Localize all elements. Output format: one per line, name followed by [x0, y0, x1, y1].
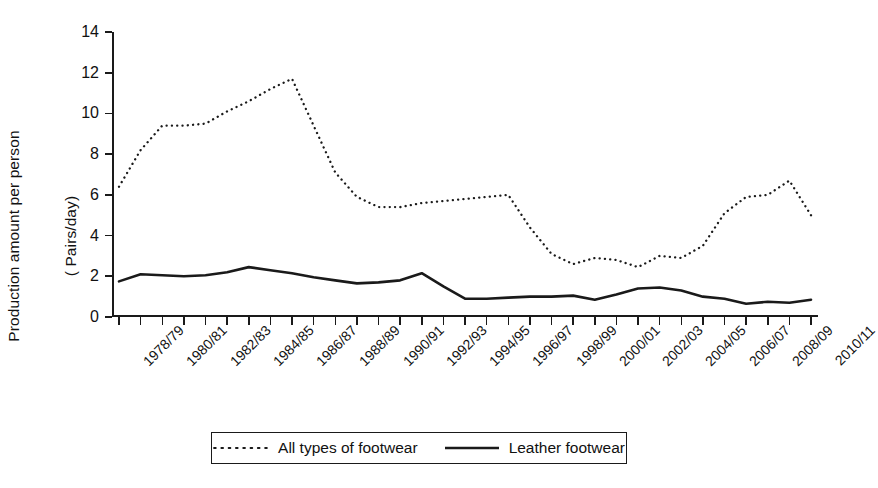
x-axis-tick — [551, 317, 553, 325]
x-axis-tick — [226, 317, 228, 325]
x-axis-tick — [810, 317, 812, 325]
y-axis-tick: 0 — [105, 316, 112, 318]
x-axis-tick — [464, 317, 466, 325]
x-axis-tick — [572, 317, 574, 325]
x-axis-tick — [443, 317, 445, 325]
y-axis-tick-label: 8 — [90, 145, 105, 163]
x-axis-tick-label: 1984/85 — [270, 322, 317, 369]
x-axis-tick — [399, 317, 401, 325]
x-axis-tick-label: 1988/89 — [356, 322, 403, 369]
y-axis-tick-label: 2 — [90, 267, 105, 285]
x-axis-tick — [616, 317, 618, 325]
x-axis-tick — [291, 317, 293, 325]
x-axis-tick-label: 1980/81 — [183, 322, 230, 369]
y-axis-title-line1: Production amount per person — [4, 76, 23, 396]
y-axis-tick: 10 — [105, 113, 112, 115]
x-axis-tick-label: 1994/95 — [486, 322, 533, 369]
y-axis-tick-label: 10 — [81, 104, 105, 122]
series-layer — [112, 32, 818, 317]
legend-item-all-types: All types of footwear — [213, 439, 418, 457]
legend-item-leather: Leather footwear — [444, 439, 625, 457]
y-axis-tick: 12 — [105, 72, 112, 74]
y-axis-tick: 2 — [105, 275, 112, 277]
x-axis-tick-label: 1992/93 — [443, 322, 490, 369]
x-axis-tick — [702, 317, 704, 325]
x-axis-tick — [270, 317, 272, 325]
x-axis-tick-label: 2010/11 — [832, 322, 878, 368]
x-axis-tick — [529, 317, 531, 325]
x-axis-tick-label: 2006/07 — [745, 322, 792, 369]
x-axis-tick-label: 1990/91 — [399, 322, 446, 369]
x-axis-tick — [421, 317, 423, 325]
x-axis-tick — [248, 317, 250, 325]
x-axis-tick — [659, 317, 661, 325]
x-axis-tick — [508, 317, 510, 325]
y-axis-tick-label: 0 — [90, 308, 105, 326]
x-axis-tick — [378, 317, 380, 325]
series-line-leather-footwear — [119, 267, 811, 304]
y-axis-tick: 6 — [105, 194, 112, 196]
series-line-all-types-of-footwear — [119, 79, 811, 267]
x-axis-tick — [162, 317, 164, 325]
y-axis-tick-label: 6 — [90, 185, 105, 203]
x-axis-tick-label: 1978/79 — [140, 322, 187, 369]
x-axis-tick-label: 2000/01 — [616, 322, 663, 369]
x-axis-tick — [681, 317, 683, 325]
dotted-line-swatch-icon — [213, 442, 269, 454]
x-axis-tick-label: 1982/83 — [226, 322, 273, 369]
y-axis-tick-label: 14 — [81, 23, 105, 41]
x-axis-tick — [313, 317, 315, 325]
y-axis-tick-label: 4 — [90, 226, 105, 244]
x-axis-tick-label: 2008/09 — [789, 322, 836, 369]
y-axis-tick-label: 12 — [81, 63, 105, 81]
legend-label-leather: Leather footwear — [509, 439, 625, 457]
x-axis-tick — [724, 317, 726, 325]
legend-label-all-types: All types of footwear — [278, 439, 418, 457]
x-axis-tick — [335, 317, 337, 325]
x-axis-tick — [745, 317, 747, 325]
x-axis-tick-label: 1986/87 — [313, 322, 360, 369]
x-axis-tick — [356, 317, 358, 325]
x-axis-tick-label: 1998/99 — [572, 322, 619, 369]
x-axis-tick-label: 2002/03 — [659, 322, 706, 369]
plot-area: 02468101214 — [112, 32, 818, 317]
x-axis-tick — [637, 317, 639, 325]
x-axis-tick — [118, 317, 120, 325]
y-axis-tick: 8 — [105, 153, 112, 155]
x-axis-tick — [183, 317, 185, 325]
x-axis-tick — [205, 317, 207, 325]
x-axis-tick-label: 2004/05 — [702, 322, 749, 369]
x-axis-tick — [789, 317, 791, 325]
y-axis-tick: 14 — [105, 31, 112, 33]
x-axis-tick — [594, 317, 596, 325]
y-axis-tick: 4 — [105, 235, 112, 237]
x-axis-tick-label: 1996/97 — [529, 322, 576, 369]
solid-line-swatch-icon — [444, 442, 500, 454]
legend: All types of footwear Leather footwear — [211, 432, 627, 464]
y-axis-title-line2: ( Pairs/day) — [61, 76, 80, 396]
x-axis-tick — [486, 317, 488, 325]
x-axis-tick — [767, 317, 769, 325]
x-axis-tick — [140, 317, 142, 325]
